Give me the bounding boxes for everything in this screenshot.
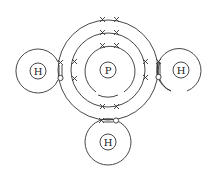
ph3-bonding-diagram: P H H H: [0, 0, 217, 179]
phosphorus-atom: P: [58, 20, 158, 120]
phosphorus-shell-1-lower: [98, 95, 118, 97]
cross-icon: [72, 76, 77, 81]
dot-icon: [58, 75, 63, 80]
cross-icon: [100, 17, 105, 22]
cross-icon: [114, 17, 119, 22]
cross-icon: [143, 75, 148, 80]
shared-pair-left: [59, 65, 62, 76]
hydrogen-label-right: H: [177, 65, 186, 76]
hydrogen-atom-right: H: [157, 49, 201, 91]
hydrogen-label-bottom: H: [104, 137, 113, 148]
dot-icon: [156, 74, 161, 79]
dot-icon: [113, 118, 118, 123]
shared-pair-bottom: [103, 119, 113, 122]
hydrogen-atom-bottom: H: [85, 119, 131, 165]
hydrogen-electrons: [58, 74, 161, 123]
cross-icon: [100, 30, 105, 35]
cross-icon: [72, 59, 77, 64]
hydrogen-label-left: H: [34, 66, 43, 77]
hydrogen-atom-left: H: [16, 49, 58, 93]
phosphorus-label: P: [105, 65, 112, 76]
